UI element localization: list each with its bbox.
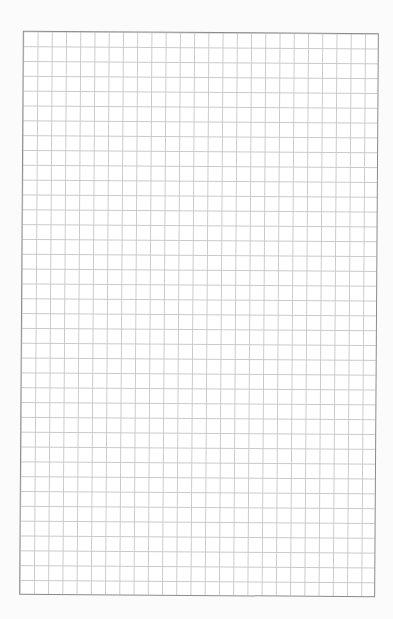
graph-paper-grid	[19, 31, 379, 597]
